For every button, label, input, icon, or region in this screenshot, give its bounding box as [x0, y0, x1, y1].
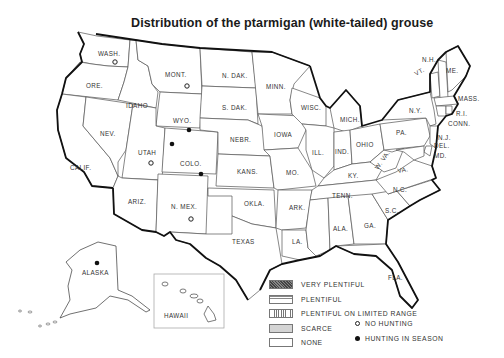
- label-ohio: OHIO: [356, 141, 374, 148]
- label-idaho: IDAHO: [126, 102, 148, 109]
- label-del: DEL.: [434, 142, 450, 149]
- open-circle-icon: [185, 84, 189, 88]
- label-okla: OKLA.: [244, 200, 265, 207]
- swatch-horizontal-lines-icon: [269, 295, 293, 304]
- label-ndak: N. DAK.: [222, 72, 248, 79]
- state-alaska: [60, 242, 150, 318]
- label-ill: ILL.: [312, 149, 324, 156]
- label-ky: KY.: [348, 172, 359, 179]
- swatch-vertical-lines-icon: [269, 309, 293, 318]
- label-nh: N.H.: [422, 56, 436, 63]
- state-ri: [446, 106, 452, 114]
- swatch-gray-icon: [269, 324, 293, 333]
- state-conn: [436, 106, 446, 116]
- label-pa: PA.: [396, 129, 407, 136]
- label-nebr: NEBR.: [230, 136, 251, 143]
- filled-circle-icon: [199, 172, 204, 177]
- label-calif: CALIF.: [70, 164, 91, 171]
- filled-circle-icon: [187, 128, 192, 133]
- label-ark: ARK.: [289, 204, 305, 211]
- label-ri: R.I.: [456, 110, 467, 117]
- label-nev: NEV.: [100, 130, 116, 137]
- label-tenn: TENN.: [332, 192, 353, 199]
- label-minn: MINN.: [266, 83, 286, 90]
- label-alaska: ALASKA: [82, 269, 109, 276]
- label-iowa: IOWA: [274, 131, 293, 138]
- label-nc: N.C.: [393, 186, 407, 193]
- symbol-legend: NO HUNTING HUNTING IN SEASON: [355, 317, 443, 346]
- open-circle-icon: [189, 217, 193, 221]
- label-sdak: S. DAK.: [222, 104, 247, 111]
- state-miss: [306, 198, 330, 256]
- label-mont: MONT.: [165, 71, 187, 78]
- filled-circle-icon: [95, 261, 100, 266]
- open-circle-icon: [355, 321, 360, 326]
- us-map: WASH. ORE. CALIF. IDAHO NEV. MONT. WYO. …: [0, 0, 504, 358]
- filled-circle-icon: [355, 336, 360, 341]
- label-colo: COLO.: [180, 160, 202, 167]
- label-texas: TEXAS: [232, 238, 255, 245]
- open-circle-icon: [113, 60, 117, 64]
- state-colo: [162, 128, 218, 174]
- swatch-crosshatch-icon: [269, 280, 293, 289]
- open-circle-icon: [149, 161, 153, 165]
- label-wisc: WISC.: [301, 104, 321, 111]
- state-ore: [62, 62, 128, 100]
- label-kans: KANS.: [237, 168, 258, 175]
- label-nmex: N. MEX.: [171, 203, 197, 210]
- label-mich: MICH.: [340, 116, 360, 123]
- label-hawaii: HAWAII: [164, 312, 188, 319]
- filled-circle-icon: [170, 142, 175, 147]
- label-md: MD.: [434, 152, 447, 159]
- label-wyo: WYO.: [173, 117, 191, 124]
- label-nj: N.J.: [438, 134, 451, 141]
- label-ind: IND.: [335, 148, 349, 155]
- legend-very-plentiful: VERY PLENTIFUL: [269, 278, 417, 291]
- label-ga: GA.: [364, 222, 376, 229]
- label-ala: ALA.: [333, 225, 348, 232]
- label-wash: WASH.: [98, 50, 120, 57]
- legend-no-hunting: NO HUNTING: [355, 317, 443, 330]
- state-mich: [330, 90, 362, 132]
- label-ore: ORE.: [86, 82, 103, 89]
- legend-plentiful: PLENTIFUL: [269, 293, 417, 306]
- label-utah: UTAH: [138, 149, 156, 156]
- legend-hunting-in-season: HUNTING IN SEASON: [355, 332, 443, 345]
- swatch-white-icon: [269, 338, 293, 347]
- label-vt: VT.: [413, 66, 425, 77]
- label-mass: MASS.: [458, 95, 480, 102]
- state-ndak: [200, 48, 256, 88]
- label-me: ME.: [446, 67, 458, 74]
- label-mo: MO.: [286, 169, 299, 176]
- aleutian-islands: [19, 310, 58, 327]
- label-conn: CONN.: [448, 120, 470, 127]
- label-ariz: ARIZ.: [128, 198, 146, 205]
- label-sc: S.C.: [385, 207, 399, 214]
- state-del: [424, 146, 432, 156]
- label-ny: N.Y.: [409, 107, 422, 114]
- label-la: LA.: [292, 238, 303, 245]
